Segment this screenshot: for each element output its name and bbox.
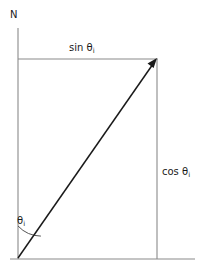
angle-label-subscript: i xyxy=(23,220,25,228)
north-label: N xyxy=(10,10,17,20)
cos-component-label-subscript: i xyxy=(188,171,190,179)
cos-component-label-text: cos θ xyxy=(162,166,188,177)
sin-component-label-text: sin θ xyxy=(69,42,93,53)
incidence-vector-arrow xyxy=(18,64,153,258)
angle-label: θi xyxy=(17,216,25,226)
sin-component-label-subscript: i xyxy=(93,47,95,55)
sin-component-label: sin θi xyxy=(69,43,95,53)
vector-decomposition-diagram xyxy=(0,0,201,277)
cos-component-label: cos θi xyxy=(162,167,190,177)
